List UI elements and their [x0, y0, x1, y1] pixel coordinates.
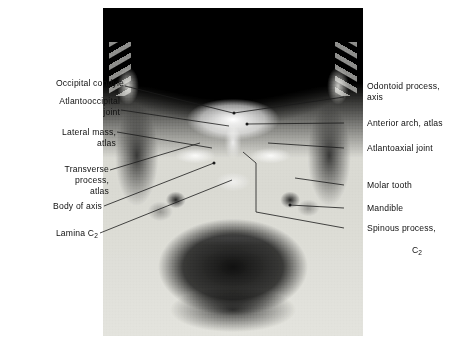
label-lamina-c2-subscript: 2: [94, 232, 98, 239]
label-atlantoaxial-joint: Atlantoaxial joint: [367, 143, 469, 154]
label-molar-tooth: Molar tooth: [367, 180, 469, 191]
label-lateral-mass-atlas: Lateral mass, atlas: [12, 127, 116, 149]
label-mandible: Mandible: [367, 203, 469, 214]
label-spinous-process-c2-subscript: 2: [418, 249, 422, 256]
label-anterior-arch-atlas: Anterior arch, atlas: [367, 118, 469, 129]
label-lamina-c2-text: Lamina C: [56, 228, 94, 238]
label-lamina-c2: Lamina C2: [12, 228, 98, 241]
label-transverse-process-atlas: Transverse process, atlas: [12, 164, 109, 197]
label-spinous-process-c2-line1: Spinous process,: [367, 223, 436, 233]
label-spinous-process-c2: Spinous process, C2: [367, 223, 467, 258]
annotated-radiograph-figure: Occipital condyle Atlantooccipital joint…: [0, 0, 471, 354]
label-body-of-axis: Body of axis: [12, 201, 102, 212]
cervical-spine-radiograph: [103, 8, 363, 336]
label-occipital-condyle: Occipital condyle: [12, 78, 124, 89]
film-grain-overlay: [103, 8, 363, 336]
label-odontoid-process-axis: Odontoid process, axis: [367, 81, 469, 103]
label-atlantooccipital-joint: Atlantooccipital joint: [12, 96, 120, 118]
